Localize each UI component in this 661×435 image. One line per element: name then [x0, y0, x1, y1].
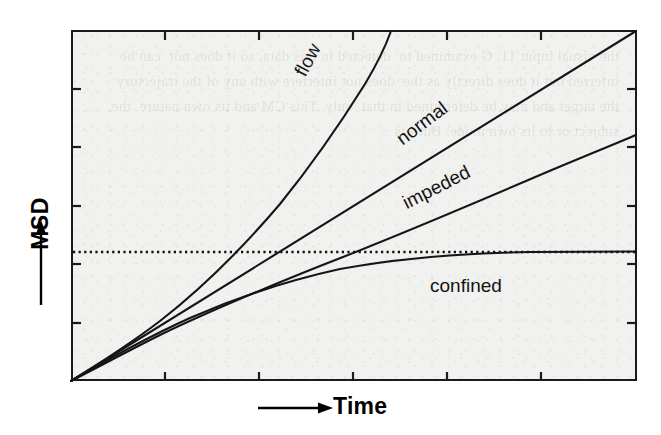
curve-normal: [71, 31, 636, 381]
axis-ticks-top: [165, 31, 541, 40]
y-axis-title: MSD: [27, 184, 54, 264]
y-axis-label-group: MSD: [14, 150, 66, 315]
curve-confined: [71, 252, 636, 382]
axis-ticks-bottom: [165, 372, 541, 381]
curve-flow: [71, 31, 391, 381]
axis-ticks-right: [627, 89, 636, 323]
figure-canvas: the visual input 11. G examined to detec…: [0, 0, 661, 435]
x-axis-title: Time: [333, 393, 387, 420]
curve-label-confined: confined: [430, 275, 502, 297]
plot-vector-layer: [0, 0, 661, 435]
axis-ticks-left: [72, 89, 81, 323]
x-axis-arrow: [258, 403, 333, 414]
curve-impeded: [71, 135, 636, 381]
